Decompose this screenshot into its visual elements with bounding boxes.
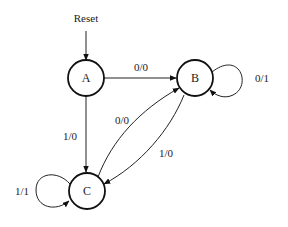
transition-b-self-label: 0/1 <box>255 72 269 84</box>
state-b: B <box>177 60 213 96</box>
transition-a-to-b-label: 0/0 <box>134 61 149 73</box>
reset-label: Reset <box>74 12 98 24</box>
state-a: A <box>68 60 104 96</box>
state-diagram: Reset 0/0 1/0 0/1 1/0 0/0 1/1 A B C <box>0 0 288 227</box>
state-a-label: A <box>82 71 91 85</box>
state-c: C <box>69 173 105 209</box>
transition-c-self-label: 1/1 <box>15 185 29 197</box>
state-c-label: C <box>83 184 91 198</box>
transition-a-to-c-label: 1/0 <box>63 130 78 142</box>
transition-c-self-loop <box>36 175 70 207</box>
transition-c-to-b <box>98 88 179 177</box>
transition-b-self-loop <box>210 65 242 97</box>
state-b-label: B <box>191 71 199 85</box>
transition-c-to-b-label: 0/0 <box>115 114 130 126</box>
transition-b-to-c <box>104 95 184 184</box>
transition-b-to-c-label: 1/0 <box>159 147 174 159</box>
